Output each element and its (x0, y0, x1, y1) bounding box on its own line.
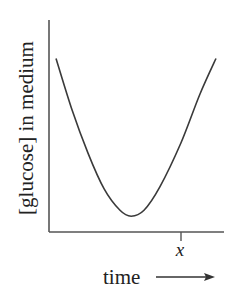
glucose-chart: x time [glucose] in medium (0, 0, 232, 301)
right-arrow-icon (156, 273, 215, 281)
x-tick-label: x (175, 239, 185, 260)
glucose-curve (56, 59, 216, 217)
y-axis-label: [glucose] in medium (14, 41, 38, 215)
x-axis-label: time (103, 265, 140, 289)
